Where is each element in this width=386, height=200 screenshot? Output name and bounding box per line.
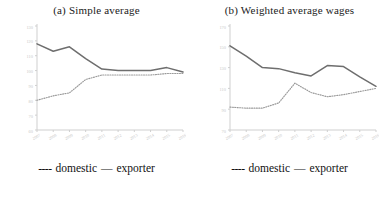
panel-b-legend: ---- domestic — exporter bbox=[231, 162, 348, 174]
legend-domestic-marker: ---- bbox=[231, 162, 244, 174]
series-line-exporter bbox=[230, 46, 376, 87]
y-tick-label: 100 bbox=[26, 69, 33, 74]
x-tick-label: 2012 bbox=[113, 133, 123, 141]
x-tick-label: 2010 bbox=[273, 133, 283, 141]
x-tick-label: 2008 bbox=[241, 133, 251, 141]
legend-domestic-marker: ---- bbox=[38, 162, 51, 174]
x-tick-label: 2015 bbox=[354, 133, 364, 141]
y-tick-label: 60 bbox=[29, 129, 34, 134]
legend-exporter-label: exporter bbox=[117, 162, 155, 174]
legend-exporter-label: exporter bbox=[310, 162, 348, 174]
panel-a-plot-area: 1301201101009080706020072008200920102011… bbox=[11, 18, 186, 156]
series-line-exporter bbox=[37, 44, 183, 72]
y-tick-label: 130 bbox=[26, 25, 33, 30]
y-tick-label: 170 bbox=[219, 25, 226, 30]
x-tick-label: 2010 bbox=[80, 133, 90, 141]
x-tick-label: 2013 bbox=[322, 133, 332, 141]
two-panel-line-figure: (a) Simple average 130120110100908070602… bbox=[0, 0, 386, 200]
y-tick-label: 80 bbox=[29, 99, 34, 104]
y-tick-label: 70 bbox=[222, 129, 227, 134]
x-tick-label: 2008 bbox=[48, 133, 58, 141]
y-tick-label: 90 bbox=[222, 108, 227, 113]
legend-exporter-marker: — bbox=[294, 162, 306, 174]
y-tick-label: 70 bbox=[29, 114, 34, 119]
y-tick-label: 90 bbox=[29, 84, 34, 89]
x-tick-label: 2011 bbox=[96, 133, 106, 141]
x-tick-label: 2007 bbox=[31, 133, 41, 141]
legend-domestic-label: domestic bbox=[248, 162, 290, 174]
y-tick-label: 130 bbox=[219, 66, 226, 71]
y-tick-label: 110 bbox=[220, 87, 227, 92]
panel-b-title: (b) Weighted average wages bbox=[225, 4, 355, 16]
panel-a-legend: ---- domestic — exporter bbox=[38, 162, 155, 174]
x-tick-label: 2016 bbox=[370, 133, 379, 141]
x-tick-label: 2015 bbox=[161, 133, 171, 141]
x-tick-label: 2014 bbox=[145, 132, 156, 141]
panel-simple-average: (a) Simple average 130120110100908070602… bbox=[0, 0, 193, 200]
panel-a-title: (a) Simple average bbox=[53, 4, 140, 16]
x-tick-label: 2016 bbox=[177, 133, 186, 141]
y-tick-label: 150 bbox=[219, 45, 226, 50]
panel-b-plot-area: 1701501301109070200720082009201020112012… bbox=[204, 18, 379, 156]
y-tick-label: 120 bbox=[26, 39, 33, 44]
y-tick-label: 110 bbox=[27, 54, 34, 59]
x-tick-label: 2009 bbox=[257, 133, 267, 141]
series-line-domestic bbox=[37, 74, 183, 101]
x-tick-label: 2012 bbox=[306, 133, 316, 141]
x-tick-label: 2011 bbox=[289, 133, 299, 141]
panel-a-svg: 1301201101009080706020072008200920102011… bbox=[11, 18, 186, 156]
legend-domestic-label: domestic bbox=[55, 162, 97, 174]
panel-b-svg: 1701501301109070200720082009201020112012… bbox=[204, 18, 379, 156]
legend-exporter-marker: — bbox=[101, 162, 113, 174]
x-tick-label: 2013 bbox=[129, 133, 139, 141]
series-line-domestic bbox=[230, 83, 376, 108]
panel-weighted-average-wages: (b) Weighted average wages 1701501301109… bbox=[193, 0, 386, 200]
x-tick-label: 2007 bbox=[224, 133, 234, 141]
x-tick-label: 2014 bbox=[338, 132, 349, 141]
x-tick-label: 2009 bbox=[64, 133, 74, 141]
